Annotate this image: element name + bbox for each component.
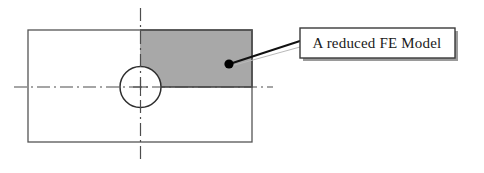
figure-root: A reduced FE Model — [0, 0, 484, 173]
callout-label: A reduced FE Model — [313, 35, 442, 51]
fe-model-diagram: A reduced FE Model — [0, 0, 484, 173]
callout-anchor-dot-icon — [224, 59, 233, 68]
